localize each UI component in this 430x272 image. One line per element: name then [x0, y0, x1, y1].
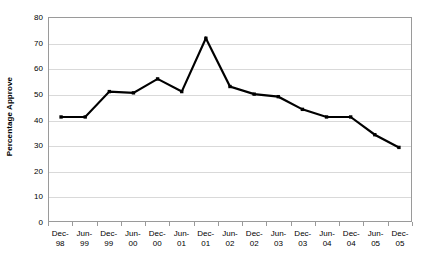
approval-rating-line-chart: Percentage Approve 01020304050607080 Dec… [0, 0, 430, 272]
data-point-marker [204, 37, 207, 40]
x-tick-label: Jun-03 [271, 229, 287, 249]
x-tick-label: Jun-05 [368, 229, 384, 249]
x-tick-mark [145, 222, 146, 226]
x-tick-label-year: 00 [149, 239, 166, 249]
x-axis-tick-marks [48, 222, 412, 227]
data-point-marker [108, 90, 111, 93]
data-point-marker [373, 133, 376, 136]
x-tick-label-month: Dec- [246, 229, 263, 239]
x-tick-mark [412, 222, 413, 226]
x-tick-mark [121, 222, 122, 226]
y-tick-label: 60 [34, 64, 43, 73]
x-tick-label-year: 99 [77, 239, 93, 249]
x-tick-label-month: Jun- [271, 229, 287, 239]
x-tick-mark [291, 222, 292, 226]
data-point-marker [156, 77, 159, 80]
y-axis-tick-labels: 01020304050607080 [20, 0, 46, 272]
x-tick-mark [315, 222, 316, 226]
series-polyline [61, 38, 399, 147]
x-tick-mark [48, 222, 49, 226]
x-tick-label-year: 99 [100, 239, 117, 249]
x-tick-label-month: Jun- [319, 229, 335, 239]
x-tick-label-month: Dec- [100, 229, 117, 239]
y-tick-label: 50 [34, 89, 43, 98]
x-tick-mark [363, 222, 364, 226]
plot-area [48, 17, 412, 222]
x-tick-mark [388, 222, 389, 226]
series-line-approval [49, 18, 411, 221]
x-tick-label: Dec-00 [149, 229, 166, 249]
y-tick-label: 0 [39, 218, 43, 227]
x-tick-label: Dec-99 [100, 229, 117, 249]
x-tick-label-month: Dec- [391, 229, 408, 239]
x-tick-mark [194, 222, 195, 226]
x-tick-label-month: Dec- [197, 229, 214, 239]
y-tick-label: 40 [34, 115, 43, 124]
x-tick-label-year: 05 [368, 239, 384, 249]
x-tick-label-month: Dec- [294, 229, 311, 239]
x-tick-label-month: Jun- [368, 229, 384, 239]
x-tick-label: Jun-04 [319, 229, 335, 249]
data-point-marker [397, 146, 400, 149]
data-point-marker [180, 90, 183, 93]
x-tick-label: Dec-98 [52, 229, 69, 249]
y-axis-title: Percentage Approve [0, 0, 20, 232]
x-tick-label-year: 01 [197, 239, 214, 249]
y-tick-label: 20 [34, 166, 43, 175]
x-tick-label-month: Jun- [125, 229, 141, 239]
x-tick-mark [169, 222, 170, 226]
x-tick-label-month: Jun- [222, 229, 238, 239]
y-tick-label: 10 [34, 192, 43, 201]
x-tick-label: Dec-03 [294, 229, 311, 249]
x-tick-mark [242, 222, 243, 226]
x-tick-mark [97, 222, 98, 226]
x-tick-label-month: Dec- [149, 229, 166, 239]
data-point-marker [59, 115, 62, 118]
x-tick-label: Jun-00 [125, 229, 141, 249]
x-tick-mark [266, 222, 267, 226]
x-tick-label-year: 03 [271, 239, 287, 249]
x-tick-mark [72, 222, 73, 226]
x-tick-label: Jun-02 [222, 229, 238, 249]
x-tick-mark [339, 222, 340, 226]
y-tick-label: 80 [34, 13, 43, 22]
x-axis-tick-labels: Dec-98Jun-99Dec-99Jun-00Dec-00Jun-01Dec-… [48, 229, 412, 269]
x-tick-label-month: Jun- [174, 229, 190, 239]
x-tick-label-year: 00 [125, 239, 141, 249]
x-tick-label: Dec-05 [391, 229, 408, 249]
x-tick-label: Dec-02 [246, 229, 263, 249]
x-tick-label-year: 02 [246, 239, 263, 249]
data-point-marker [301, 108, 304, 111]
data-point-marker [228, 85, 231, 88]
x-tick-label-year: 02 [222, 239, 238, 249]
data-point-marker [132, 91, 135, 94]
x-tick-label-month: Dec- [52, 229, 69, 239]
data-point-marker [325, 115, 328, 118]
y-tick-label: 70 [34, 38, 43, 47]
x-tick-label-year: 01 [174, 239, 190, 249]
x-tick-label-year: 04 [343, 239, 360, 249]
x-tick-mark [218, 222, 219, 226]
y-tick-label: 30 [34, 141, 43, 150]
data-point-marker [349, 115, 352, 118]
data-point-marker [277, 95, 280, 98]
data-point-marker [84, 115, 87, 118]
data-point-marker [252, 92, 255, 95]
x-tick-label-month: Jun- [77, 229, 93, 239]
x-tick-label-year: 98 [52, 239, 69, 249]
x-tick-label: Jun-01 [174, 229, 190, 249]
x-tick-label-year: 05 [391, 239, 408, 249]
y-axis-title-label: Percentage Approve [6, 76, 15, 155]
x-tick-label: Dec-01 [197, 229, 214, 249]
x-tick-label: Dec-04 [343, 229, 360, 249]
x-tick-label-year: 04 [319, 239, 335, 249]
x-tick-label-month: Dec- [343, 229, 360, 239]
x-tick-label: Jun-99 [77, 229, 93, 249]
x-tick-label-year: 03 [294, 239, 311, 249]
